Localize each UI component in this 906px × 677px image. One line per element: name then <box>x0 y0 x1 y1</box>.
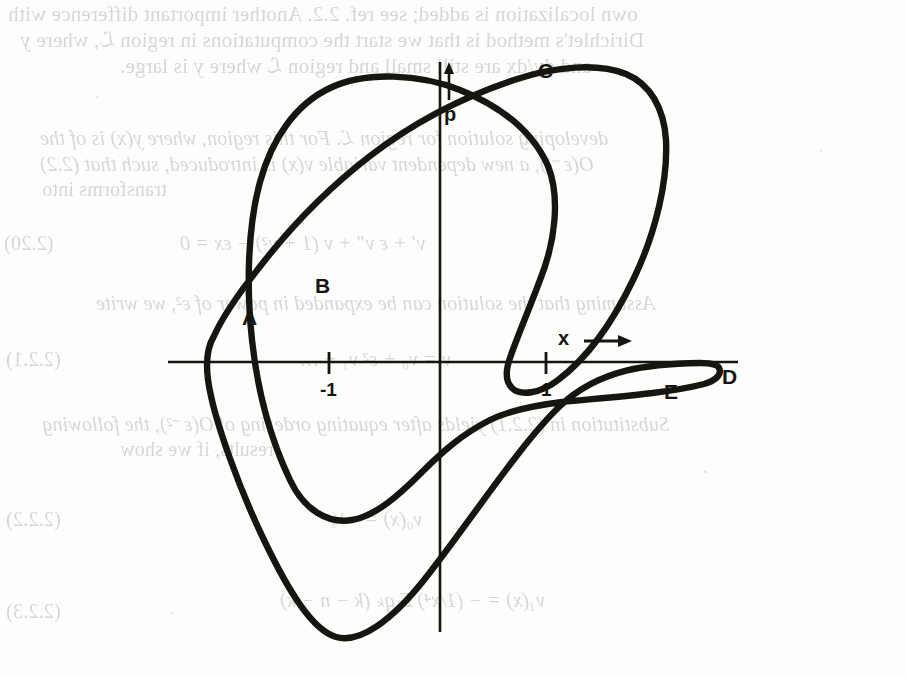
curve-point-label-A: A <box>242 307 257 328</box>
phase-plane-figure: A B C D E A -1 1 x p <box>0 0 906 677</box>
p-axis-label: p <box>444 104 456 124</box>
x-axis-arrowhead <box>618 335 632 347</box>
figure-svg <box>0 0 906 677</box>
x-axis-label: x <box>558 328 569 348</box>
x-tick-label-one: 1 <box>541 380 552 399</box>
x-tick-label-minus-one: -1 <box>320 380 337 399</box>
curve-point-label-E: E <box>664 381 678 402</box>
scanned-page: own localization is added; see ref. 2.2.… <box>0 0 906 677</box>
curve-point-label-D: D <box>722 366 737 387</box>
hysteresis-orbit-curve <box>207 67 720 638</box>
curve-point-label-C: C <box>538 60 553 81</box>
curve-point-label-B: B <box>315 275 330 296</box>
